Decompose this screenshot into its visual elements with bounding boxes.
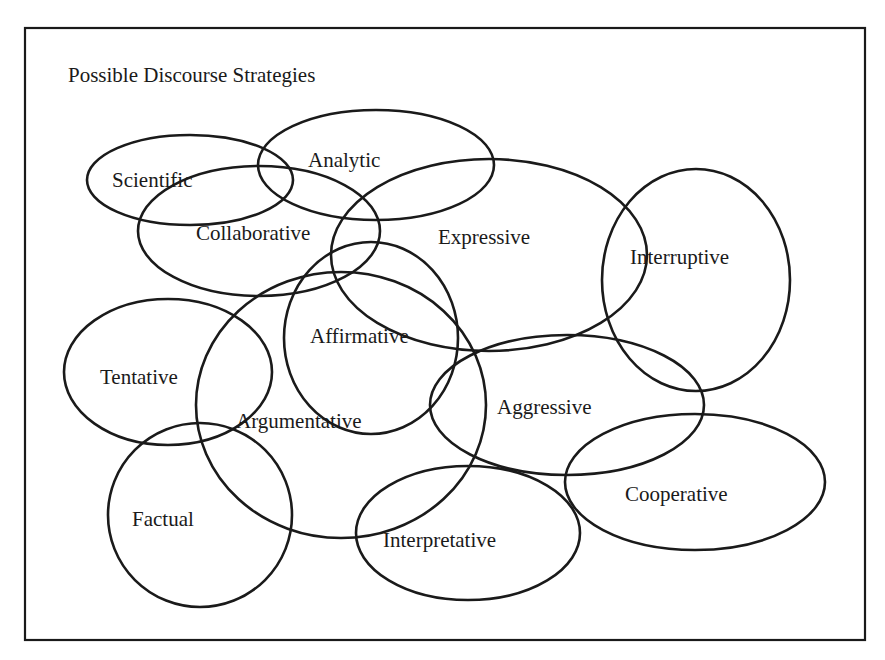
label-interpretative: Interpretative (383, 528, 496, 552)
label-aggressive: Aggressive (497, 395, 591, 419)
label-argumentative: Argumentative (236, 409, 362, 433)
ellipse-interruptive (602, 169, 790, 391)
label-factual: Factual (132, 507, 194, 531)
label-interruptive: Interruptive (630, 245, 729, 269)
diagram-title: Possible Discourse Strategies (68, 63, 315, 87)
ellipse-argumentative (196, 272, 486, 538)
label-affirmative: Affirmative (310, 324, 409, 348)
label-tentative: Tentative (100, 365, 178, 389)
discourse-strategies-diagram: Possible Discourse Strategies Scientific… (0, 0, 885, 660)
label-expressive: Expressive (438, 225, 530, 249)
label-collaborative: Collaborative (196, 221, 310, 245)
label-cooperative: Cooperative (625, 482, 728, 506)
strategy-labels: ScientificAnalyticCollaborativeExpressiv… (100, 148, 729, 552)
label-scientific: Scientific (112, 168, 192, 192)
ellipse-expressive (331, 159, 647, 351)
label-analytic: Analytic (308, 148, 380, 172)
